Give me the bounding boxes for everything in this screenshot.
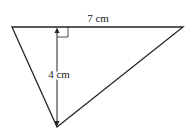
height-label: 4 cm [48, 68, 70, 80]
arrowhead-top-icon [55, 28, 60, 34]
base-label: 7 cm [87, 12, 109, 24]
triangle-diagram: 7 cm 4 cm [0, 0, 194, 140]
triangle-shape [12, 27, 183, 127]
